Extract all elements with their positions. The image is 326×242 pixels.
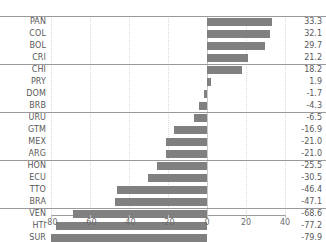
x-tick-mark-neg80 (51, 215, 52, 218)
x-tick-label-neg80: -80 (36, 218, 66, 227)
value-label-pry: 1.9 (288, 76, 322, 88)
value-label-tto: -46.4 (288, 184, 322, 196)
x-tick-mark-neg60 (90, 215, 91, 218)
x-tick-mark-neg40 (129, 215, 130, 218)
bar-ecu (148, 174, 207, 182)
y-label-ecu: ECU (0, 172, 46, 184)
bar-bra (115, 198, 207, 206)
y-label-dom: DOM (0, 88, 46, 100)
y-label-cri: CRI (0, 52, 46, 64)
y-label-mex: MEX (0, 136, 46, 148)
y-label-gtm: GTM (0, 124, 46, 136)
y-label-chi: CHI (0, 64, 46, 76)
bar-row (51, 172, 285, 184)
value-label-chi: 18.2 (288, 64, 322, 76)
bar-arg (166, 150, 207, 158)
bar-row (51, 16, 285, 28)
value-label-hon: -25.5 (288, 160, 322, 172)
bar-gtm (174, 126, 207, 134)
bar-row (51, 88, 285, 100)
bar-uru (194, 114, 207, 122)
value-label-gtm: -16.9 (288, 124, 322, 136)
value-label-col: 32.1 (288, 28, 322, 40)
y-label-arg: ARG (0, 148, 46, 160)
bar-row (51, 64, 285, 76)
y-label-tto: TTO (0, 184, 46, 196)
bar-mex (166, 138, 207, 146)
bar-row (51, 124, 285, 136)
bar-row (51, 136, 285, 148)
bar-bol (207, 42, 265, 50)
bar-hon (157, 162, 207, 170)
x-tick-mark-0 (207, 215, 208, 218)
y-label-bra: BRA (0, 196, 46, 208)
bar-row (51, 76, 285, 88)
bar-dom (204, 90, 207, 98)
bar-pry (207, 78, 211, 86)
x-tick-label-40: 40 (270, 218, 300, 227)
y-label-pry: PRY (0, 76, 46, 88)
bar-ven (73, 210, 207, 218)
separator-after-bra (0, 208, 326, 209)
bar-row (51, 100, 285, 112)
bar-row (51, 160, 285, 172)
separator-after-arg (0, 160, 326, 161)
bar-sur (51, 234, 207, 242)
y-label-hon: HON (0, 160, 46, 172)
value-label-uru: -6.5 (288, 112, 322, 124)
value-label-dom: -1.7 (288, 88, 322, 100)
bar-row (51, 196, 285, 208)
value-label-bol: 29.7 (288, 40, 322, 52)
value-label-bra: -47.1 (288, 196, 322, 208)
x-tick-mark-neg20 (168, 215, 169, 218)
value-label-cri: 21.2 (288, 52, 322, 64)
separator-after-brb (0, 112, 326, 113)
y-label-brb: BRB (0, 100, 46, 112)
bar-brb (199, 102, 207, 110)
gridline-40 (285, 16, 287, 215)
value-label-ecu: -30.5 (288, 172, 322, 184)
y-label-uru: URU (0, 112, 46, 124)
value-label-sur: -79.9 (288, 232, 322, 242)
y-label-pan: PAN (0, 16, 46, 28)
bar-row (51, 184, 285, 196)
separator-top (0, 16, 326, 17)
y-label-sur: SUR (0, 232, 46, 242)
bar-row (51, 40, 285, 52)
y-label-col: COL (0, 28, 46, 40)
value-label-mex: -21.0 (288, 136, 322, 148)
value-label-brb: -4.3 (288, 100, 322, 112)
bar-pan (207, 18, 272, 26)
value-label-pan: 33.3 (288, 16, 322, 28)
plot-area (51, 16, 285, 215)
separator-after-cri (0, 64, 326, 65)
bar-row (51, 112, 285, 124)
bar-row (51, 28, 285, 40)
x-tick-label-neg40: -40 (114, 218, 144, 227)
value-label-arg: -21.0 (288, 148, 322, 160)
bar-row (51, 52, 285, 64)
bar-cri (207, 54, 248, 62)
y-label-bol: BOL (0, 40, 46, 52)
x-tick-label-20: 20 (231, 218, 261, 227)
bar-row (51, 148, 285, 160)
x-tick-label-0: 0 (192, 218, 222, 227)
bar-chi (207, 66, 242, 74)
bar-row (51, 232, 285, 242)
bar-col (207, 30, 270, 38)
x-tick-mark-20 (246, 215, 247, 218)
x-tick-mark-40 (285, 215, 286, 218)
x-tick-label-neg20: -20 (153, 218, 183, 227)
bar-tto (117, 186, 207, 194)
bar-chart: PANCOLBOLCRICHIPRYDOMBRBURUGTMMEXARGHONE… (0, 0, 326, 242)
x-tick-label-neg60: -60 (75, 218, 105, 227)
